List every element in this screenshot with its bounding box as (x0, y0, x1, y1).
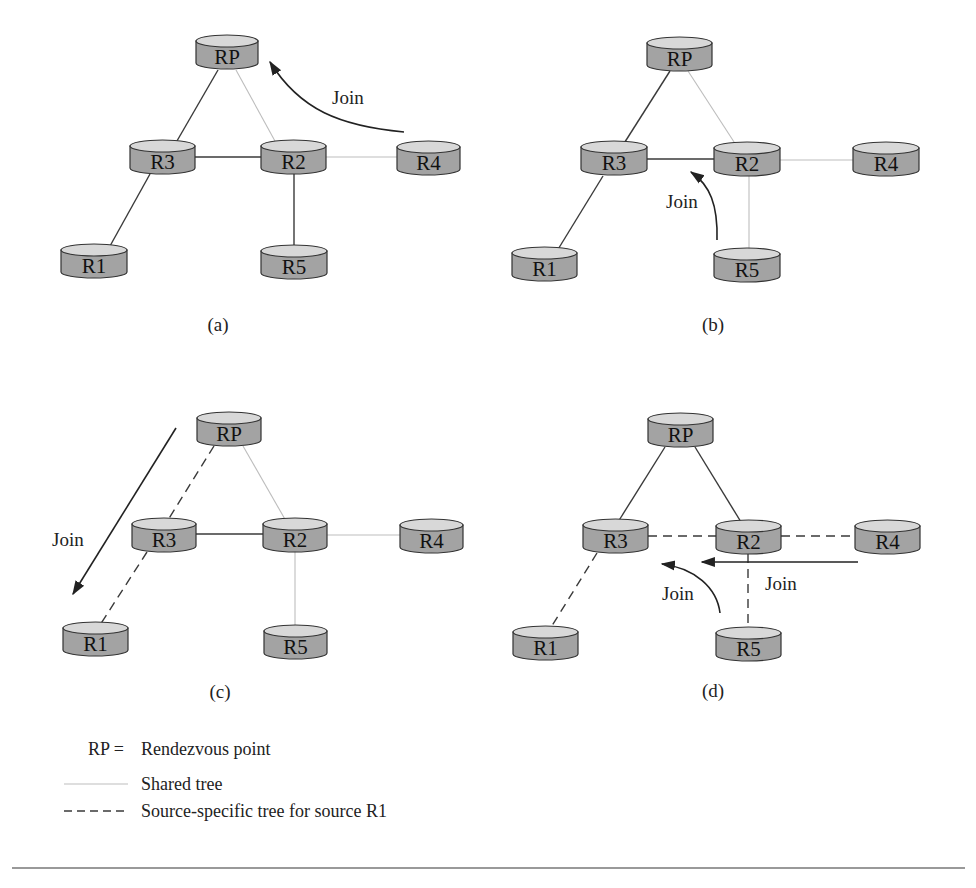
router-label: R5 (282, 255, 307, 279)
router-label: R1 (82, 254, 107, 278)
router-r2: R2 (716, 520, 781, 554)
join-label: Join (666, 191, 698, 212)
router-label: RP (668, 423, 694, 447)
router-label: R5 (735, 258, 760, 282)
router-r4: R4 (400, 519, 463, 553)
router-rp: RP (196, 35, 258, 69)
legend-source-desc: Source-specific tree for source R1 (141, 801, 387, 821)
router-label: R1 (533, 636, 558, 660)
join-label: Join (332, 87, 364, 108)
router-r4: R4 (397, 141, 460, 175)
router-r5: R5 (261, 245, 327, 279)
panel-caption: (a) (207, 314, 228, 336)
router-r3: R3 (581, 141, 647, 175)
panel-c: RPR3R2R4R1R5Join(c) (52, 412, 463, 703)
link-r3-r1-solid (105, 174, 150, 255)
router-r3: R3 (132, 518, 196, 552)
router-label: R2 (735, 152, 760, 176)
panel-caption: (c) (209, 681, 230, 703)
link-rp-r3-solid (623, 71, 670, 145)
link-r3-r1-solid (557, 176, 603, 251)
router-label: R4 (419, 529, 444, 553)
router-r1: R1 (63, 622, 128, 656)
router-rp: RP (647, 37, 712, 71)
router-r1: R1 (61, 244, 127, 278)
link-r3-r1-dashed (100, 552, 147, 625)
link-rp-r2-shared (688, 71, 736, 145)
router-label: R5 (736, 637, 761, 661)
diagram-panels: RPR3R2R4R1R5Join(a)RPR3R2R4R1R5Join(b)RP… (52, 35, 920, 703)
router-label: R5 (283, 635, 308, 659)
link-rp-r3-dashed (168, 446, 214, 520)
router-r5: R5 (264, 625, 327, 659)
legend-rp-desc: Rendezvous point (141, 739, 270, 759)
router-r4: R4 (855, 520, 920, 554)
router-label: RP (667, 47, 693, 71)
router-rp: RP (197, 412, 261, 446)
router-label: R3 (602, 151, 627, 175)
router-label: R2 (283, 528, 308, 552)
link-rp-r2-solid (695, 447, 741, 522)
router-r5: R5 (716, 627, 781, 661)
router-r3: R3 (583, 519, 648, 553)
router-r1: R1 (513, 626, 578, 660)
router-r2: R2 (263, 518, 327, 552)
link-r3-r1-dashed (550, 553, 597, 629)
router-label: R4 (874, 152, 899, 176)
router-label: RP (216, 422, 242, 446)
pim-join-diagram: RPR3R2R4R1R5Join(a)RPR3R2R4R1R5Join(b)RP… (0, 0, 976, 888)
router-label: R2 (281, 150, 306, 174)
router-r2: R2 (714, 142, 780, 176)
router-label: R2 (736, 530, 761, 554)
join-arrow-icon (73, 428, 176, 594)
panel-a: RPR3R2R4R1R5Join(a) (61, 35, 460, 336)
router-r3: R3 (130, 140, 195, 174)
router-r1: R1 (512, 247, 577, 281)
panel-b: RPR3R2R4R1R5Join(b) (512, 37, 919, 336)
panel-caption: (d) (702, 680, 724, 702)
router-rp: RP (648, 413, 713, 447)
router-label: R1 (83, 632, 108, 656)
join-label: Join (52, 529, 84, 550)
router-label: R1 (532, 257, 557, 281)
join-label: Join (765, 573, 797, 594)
router-label: R3 (603, 529, 628, 553)
router-r5: R5 (714, 248, 780, 282)
join-label: Join (662, 583, 694, 604)
router-r4: R4 (853, 142, 919, 176)
panel-d: RPR3R2R4R1R5JoinJoin(d) (513, 413, 920, 702)
legend-rp-key: RP = (88, 739, 124, 759)
link-rp-r3-solid (618, 447, 665, 522)
router-label: R4 (416, 151, 441, 175)
router-label: RP (214, 45, 240, 69)
link-rp-r2-shared (236, 70, 281, 152)
legend: RP = Rendezvous point Shared tree Source… (64, 739, 387, 821)
router-r2: R2 (261, 140, 326, 174)
legend-shared-desc: Shared tree (141, 774, 222, 794)
router-label: R3 (152, 528, 177, 552)
link-rp-r2-shared (243, 446, 286, 521)
router-label: R3 (150, 150, 175, 174)
panel-caption: (b) (702, 314, 724, 336)
router-label: R4 (875, 530, 900, 554)
